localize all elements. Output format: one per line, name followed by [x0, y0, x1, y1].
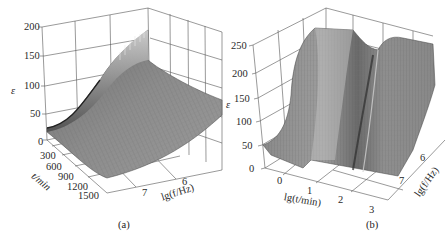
- surface-plot-b: 250 200 150 100 50 0 ε 0 1 2 3 lg(t/min)…: [223, 0, 446, 237]
- z-axis-label: ε: [226, 100, 230, 111]
- z-tick-label: 0: [38, 137, 43, 148]
- surface-plot-a: 200 150 100 50 0 ε 0 300 600 900 1200 15…: [0, 0, 223, 237]
- surface-b-graphic: [223, 0, 446, 237]
- z-tick-label: 150: [24, 51, 40, 62]
- z-tick-label: 150: [234, 94, 250, 105]
- z-tick-label: 250: [231, 41, 247, 52]
- z-tick-label: 100: [236, 117, 252, 128]
- y-tick-label: 7: [399, 176, 404, 187]
- z-tick-label: 200: [24, 22, 40, 33]
- z-tick-label: 50: [30, 109, 41, 120]
- y-tick-label: 6: [420, 153, 425, 164]
- x-tick-label: 2: [338, 195, 343, 206]
- z-tick-label: 0: [249, 164, 254, 175]
- z-tick-label: 200: [232, 69, 248, 80]
- caption-b: (b): [366, 219, 378, 230]
- caption-a: (a): [118, 219, 130, 230]
- y-tick-label: 1500: [78, 191, 99, 202]
- x-tick-label: 7: [142, 188, 147, 199]
- z-tick-label: 50: [242, 141, 253, 152]
- x-tick-label: 0: [277, 176, 282, 187]
- x-tick-label: 3: [369, 205, 374, 216]
- z-axis-label: ε: [11, 86, 15, 97]
- y-tick-label: 300: [40, 151, 56, 162]
- z-tick-label: 100: [24, 81, 40, 92]
